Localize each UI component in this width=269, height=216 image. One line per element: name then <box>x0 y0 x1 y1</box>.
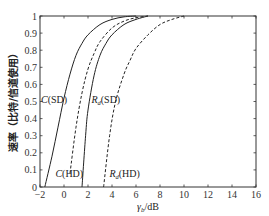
x-tick-label: 6 <box>134 189 139 200</box>
x-tick-label: 0 <box>62 189 67 200</box>
y-tick-label: 0.7 <box>25 62 38 73</box>
x-tick-label: 10 <box>179 189 189 200</box>
x-tick-label: 8 <box>158 189 163 200</box>
x-axis-label: γb/dB <box>137 201 159 214</box>
curve-label: C(HD) <box>55 168 83 180</box>
y-tick-label: 0.2 <box>25 147 38 158</box>
curve-label: Rd(HD) <box>108 168 139 180</box>
y-tick-label: 0.6 <box>25 79 38 90</box>
x-tick-label: 16 <box>251 189 261 200</box>
y-tick-label: 0.1 <box>25 164 38 175</box>
y-axis-label: 速率（比特/信道使用） <box>7 48 19 152</box>
x-tick-label: 2 <box>86 189 91 200</box>
y-tick-label: 0.5 <box>25 96 38 107</box>
x-tick-label: 4 <box>110 189 115 200</box>
x-tick-label: 14 <box>227 189 237 200</box>
y-tick-label: 1 <box>32 11 37 22</box>
y-tick-label: 0.4 <box>25 113 38 124</box>
y-tick-label: 0.9 <box>25 28 38 39</box>
curve-label: C(SD) <box>41 94 67 106</box>
y-tick-label: 0 <box>32 182 37 193</box>
y-tick-label: 0.8 <box>25 45 38 56</box>
x-tick-label: 12 <box>203 189 213 200</box>
y-tick-label: 0.3 <box>25 130 38 141</box>
rate-vs-snr-chart: −2024681012141600.10.20.30.40.50.60.70.8… <box>0 0 269 216</box>
curve-label: Rd(SD) <box>90 94 120 106</box>
axes-frame <box>40 16 256 187</box>
